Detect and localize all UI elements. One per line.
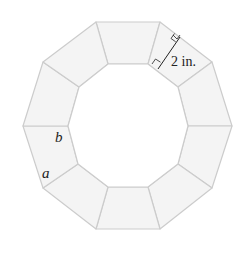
- side-b-label: b: [55, 129, 63, 145]
- width-label: 2 in.: [171, 54, 196, 69]
- trapezoid-segments: [23, 22, 232, 229]
- side-a-label: a: [42, 165, 50, 181]
- decagon-frame-diagram: 2 in. b a: [0, 0, 252, 274]
- inner-decagon: [68, 64, 188, 187]
